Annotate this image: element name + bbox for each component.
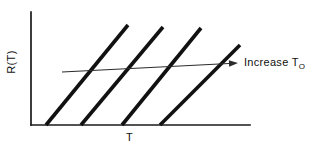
annotation-text: Increase T bbox=[244, 56, 299, 68]
x-axis-label: T bbox=[126, 131, 133, 143]
figure-container: R(T) T Increase TO bbox=[0, 0, 320, 153]
increase-t0-annotation: Increase TO bbox=[244, 56, 305, 71]
increase-arrow-shaft bbox=[62, 63, 229, 72]
curve-line-2 bbox=[81, 27, 163, 125]
curve-line-3 bbox=[122, 28, 201, 125]
curve-line-4 bbox=[160, 45, 240, 125]
curve-line-1 bbox=[46, 25, 128, 125]
annotation-subscript: O bbox=[299, 62, 305, 71]
increase-arrow-head bbox=[229, 60, 238, 66]
y-axis-label: R(T) bbox=[5, 42, 17, 82]
plot-canvas bbox=[0, 0, 320, 153]
